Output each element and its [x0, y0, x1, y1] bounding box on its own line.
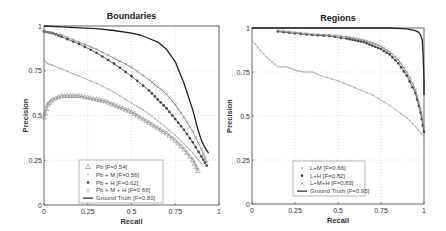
- legend-entry: Pb + H [F=0.62]: [96, 180, 139, 186]
- y-axis-label: Precision: [225, 99, 234, 133]
- regions-chart: 000.250.250.50.50.750.7511RegionsRecallP…: [225, 13, 426, 225]
- x-tick-label: 0.25: [81, 208, 95, 215]
- x-tick-label: 0.5: [127, 208, 137, 215]
- y-axis-label: Precision: [21, 98, 30, 132]
- y-tick-label: 0: [38, 202, 42, 209]
- legend: L+M [F=0.66]L+H [F=0.82]L+M+H [F=0.83]Gr…: [293, 161, 370, 196]
- legend: Pb [F=0.54]Pb + M [F=0.56]Pb + H [F=0.62…: [79, 160, 163, 203]
- series-ground-truth: [44, 26, 209, 153]
- legend-entry: Pb [F=0.54]: [96, 164, 128, 170]
- x-tick-label: 0.25: [288, 207, 302, 214]
- y-tick-label: 0.75: [28, 67, 42, 74]
- y-tick-label: 0.5: [240, 113, 250, 120]
- legend-entry: L+M+H [F=0.83]: [310, 180, 354, 186]
- series-pb-h: [43, 30, 208, 167]
- chart-canvas: 000.250.250.50.50.750.7511BoundariesReca…: [0, 0, 446, 231]
- x-axis-label: Recall: [120, 217, 142, 226]
- x-tick-label: 0.75: [374, 207, 388, 214]
- legend-entry: L+H [F=0.82]: [310, 173, 345, 179]
- y-tick-label: 0.75: [236, 69, 250, 76]
- x-axis-label: Recall: [327, 216, 349, 225]
- y-tick-label: 0.25: [28, 157, 42, 164]
- x-tick-label: 0: [42, 208, 46, 215]
- y-tick-label: 0.5: [32, 112, 42, 119]
- chart-title: Regions: [320, 13, 356, 23]
- chart-title: Boundaries: [107, 11, 157, 21]
- legend-entry: Pb + M [F=0.56]: [96, 172, 139, 178]
- x-tick-label: 0.75: [168, 208, 182, 215]
- y-tick-label: 0: [246, 201, 250, 208]
- series-pb-m: [43, 59, 202, 164]
- y-tick-label: 0.25: [236, 157, 250, 164]
- x-tick-label: 0: [250, 207, 254, 214]
- y-tick-label: 1: [246, 25, 250, 32]
- series-l-h: [277, 30, 426, 133]
- legend-entry: L+M [F=0.66]: [310, 165, 346, 171]
- y-tick-label: 1: [38, 23, 42, 30]
- legend-entry: Ground Truth [F=0.80]: [96, 195, 156, 201]
- legend-entry: Pb + M + H [F=0.66]: [96, 187, 151, 193]
- x-tick-label: 1: [422, 207, 426, 214]
- legend-entry: Ground Truth [F=0.95]: [310, 188, 370, 194]
- boundaries-chart: 000.250.250.50.50.750.7511BoundariesReca…: [21, 11, 221, 226]
- x-tick-label: 1: [217, 208, 221, 215]
- x-tick-label: 0.5: [333, 207, 343, 214]
